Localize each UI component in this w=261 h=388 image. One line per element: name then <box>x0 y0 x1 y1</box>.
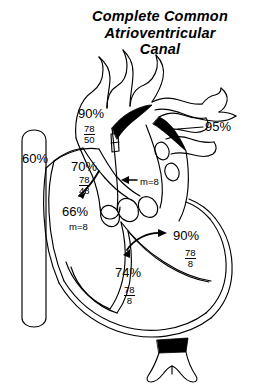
right-ventricle-pressure-fraction: 78 8 <box>124 285 135 306</box>
pulmonary-artery-saturation-label: 70% <box>71 160 97 173</box>
left-ventricle-saturation-label: 90% <box>173 229 199 242</box>
pulmonary-vein-saturation-label: 95% <box>205 120 231 133</box>
title-line-3: Canal <box>67 41 253 58</box>
aorta-saturation-label: 90% <box>78 107 104 120</box>
aorta-pressure-diastolic: 50 <box>84 135 95 145</box>
right-ventricle-pressure-diastolic: 8 <box>124 296 135 306</box>
pulmonary-vein-leader-line <box>178 127 203 129</box>
cardiac-diagram: Complete Common Atrioventricular Canal 9… <box>0 0 261 388</box>
title-line-2: Atrioventricular <box>67 25 253 42</box>
aortic-valve-cusp <box>111 133 119 152</box>
right-ventricle-saturation-label: 74% <box>115 266 141 279</box>
ventricular-shunt-arrow <box>121 176 137 184</box>
pulmonary-artery-pressure-diastolic: 48 <box>79 186 90 196</box>
descending-aorta-dark-band <box>157 338 188 353</box>
pulmonary-valve-shading <box>153 117 186 151</box>
right-atrium-saturation-label: 66% <box>62 205 88 218</box>
pulmonary-artery-pressure-fraction: 78 48 <box>79 175 90 196</box>
aorta-pressure-fraction: 78 50 <box>84 124 95 145</box>
aortic-bifurcation <box>147 352 197 382</box>
page-title: Complete Common Atrioventricular Canal <box>67 8 253 58</box>
title-line-1: Complete Common <box>67 8 253 25</box>
right-atrium-mean-label: m=8 <box>69 220 88 233</box>
heart-anatomy-drawing <box>0 0 261 388</box>
left-ventricle-pressure-fraction: 78 8 <box>185 248 196 269</box>
vena-cava-saturation-label: 60% <box>22 152 48 165</box>
left-ventricle-pressure-diastolic: 8 <box>185 259 196 269</box>
pulmonary-artery-mean-label: m=8 <box>140 175 159 188</box>
